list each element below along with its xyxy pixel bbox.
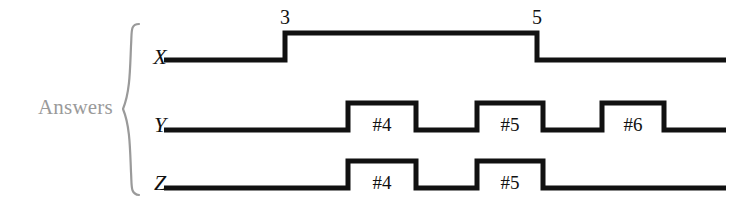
waveform-trace-x — [164, 33, 726, 60]
pulse-tag-y-6: #6 — [610, 114, 656, 136]
pulse-tag-y-5: #5 — [487, 114, 533, 136]
edge-time-mark-3: 3 — [270, 6, 300, 29]
edge-time-mark-5: 5 — [522, 6, 552, 29]
timing-diagram-figure: Answers X Y Z 3 5 #4 #5 #6 #4 #5 — [0, 0, 746, 215]
pulse-tag-z-5: #5 — [487, 172, 533, 194]
pulse-tag-z-4: #4 — [359, 172, 405, 194]
pulse-tag-y-4: #4 — [359, 114, 405, 136]
waveform-trace-z — [164, 161, 726, 188]
